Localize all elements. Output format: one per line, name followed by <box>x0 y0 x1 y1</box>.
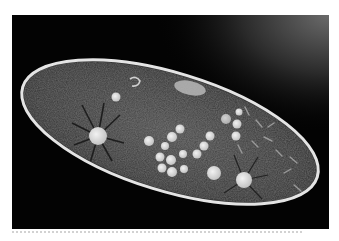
paramecium-photo <box>12 15 329 229</box>
contractile-vacuole-right <box>236 172 252 188</box>
contractile-vacuole-left <box>89 127 107 145</box>
paramecium-illustration <box>12 15 329 229</box>
dotted-divider <box>12 231 302 233</box>
